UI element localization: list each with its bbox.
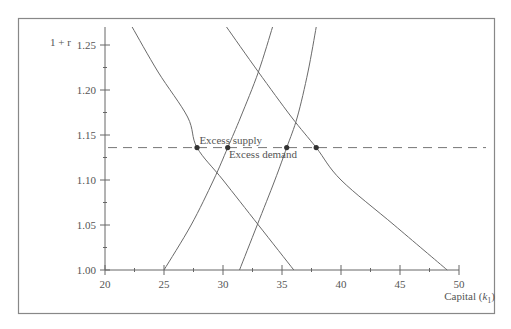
x-tick-label: 30 — [218, 278, 230, 290]
y-tick-label: 1.05 — [77, 219, 97, 231]
y-tick-label: 1.25 — [77, 39, 97, 51]
y-tick-label: 1.10 — [77, 174, 97, 186]
chart: 20253035404550 1.001.051.101.151.201.25 … — [0, 0, 511, 329]
x-tick-label: 25 — [159, 278, 171, 290]
x-ticks: 20253035404550 — [100, 265, 466, 290]
y-axis-label: 1 + r — [50, 36, 71, 48]
x-axis-label: Capital (k1) — [444, 290, 495, 305]
x-tick-label: 45 — [395, 278, 407, 290]
x-tick-label: 50 — [454, 278, 466, 290]
x-tick-label: 20 — [100, 278, 112, 290]
y-tick-label: 1.20 — [77, 84, 97, 96]
y-tick-label: 1.15 — [77, 129, 97, 141]
annotation-label: Excess supply — [199, 134, 262, 146]
y-tick-label: 1.00 — [77, 264, 97, 276]
x-tick-label: 40 — [336, 278, 348, 290]
x-tick-label: 35 — [277, 278, 289, 290]
annotation-label: Excess demand — [229, 148, 298, 160]
intersection-point — [314, 145, 319, 150]
